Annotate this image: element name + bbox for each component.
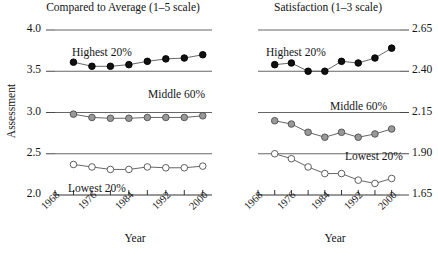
data-point — [271, 61, 278, 68]
data-point — [372, 55, 379, 62]
data-point — [144, 114, 151, 121]
data-point — [89, 63, 96, 70]
data-point — [163, 114, 170, 121]
data-point — [70, 161, 77, 168]
data-point — [163, 56, 170, 63]
data-point — [199, 113, 206, 120]
y-tick-label: 1.65 — [412, 187, 438, 199]
data-point — [89, 164, 96, 171]
series-label-middle: Middle 60% — [148, 88, 205, 100]
series-label-lowest: Lowest 20% — [345, 150, 403, 162]
data-point — [305, 164, 312, 171]
data-point — [305, 68, 312, 75]
data-point — [322, 170, 329, 177]
y-tick-label: 2.15 — [412, 105, 438, 117]
data-point — [338, 170, 345, 177]
data-point — [338, 129, 345, 136]
data-point — [355, 134, 362, 141]
series-label-highest: Highest 20% — [72, 46, 132, 58]
data-point — [126, 166, 133, 173]
data-point — [288, 121, 295, 128]
data-point — [126, 61, 133, 68]
data-point — [338, 58, 345, 65]
data-point — [372, 131, 379, 138]
data-point — [107, 166, 114, 173]
data-point — [70, 111, 77, 118]
data-point — [388, 45, 395, 52]
y-tick-label: 2.0 — [11, 187, 41, 199]
series-label-middle: Middle 60% — [330, 100, 387, 112]
data-point — [144, 58, 151, 65]
data-point — [322, 68, 329, 75]
data-point — [322, 134, 329, 141]
data-point — [107, 115, 114, 122]
figure-container: Compared to Average (1–5 scale) Satisfac… — [0, 0, 438, 256]
series-label-highest: Highest 20% — [266, 46, 326, 58]
y-tick-label: 4.0 — [11, 22, 41, 34]
data-point — [271, 117, 278, 124]
data-point — [388, 175, 395, 182]
data-point — [199, 51, 206, 58]
y-tick-label: 1.90 — [412, 146, 438, 158]
plot-area — [0, 0, 438, 256]
data-point — [181, 55, 188, 62]
data-point — [271, 150, 278, 157]
data-point — [199, 163, 206, 170]
data-point — [288, 60, 295, 67]
data-point — [388, 126, 395, 133]
y-tick-label: 2.40 — [412, 63, 438, 75]
data-point — [70, 59, 77, 66]
y-tick-label: 3.0 — [11, 105, 41, 117]
data-point — [144, 164, 151, 171]
data-point — [181, 114, 188, 121]
y-tick-label: 3.5 — [11, 63, 41, 75]
data-point — [372, 180, 379, 187]
data-point — [355, 60, 362, 67]
data-point — [355, 177, 362, 184]
data-point — [288, 155, 295, 162]
data-point — [107, 63, 114, 70]
data-point — [89, 114, 96, 121]
data-point — [181, 164, 188, 171]
y-tick-label: 2.65 — [412, 22, 438, 34]
y-tick-label: 2.5 — [11, 146, 41, 158]
data-point — [163, 164, 170, 171]
data-point — [305, 129, 312, 136]
series-label-lowest: Lowest 20% — [68, 182, 126, 194]
data-point — [126, 115, 133, 122]
